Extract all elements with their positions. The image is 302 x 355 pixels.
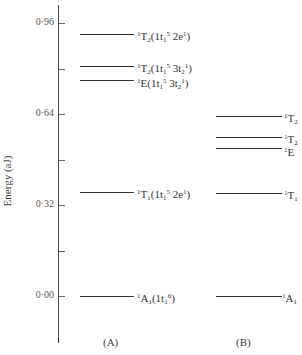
tick-0-96: [59, 23, 65, 24]
level-a-t2-2e-label: 1T2(1t15 2e1): [137, 28, 190, 46]
tick-0-32: [59, 205, 65, 206]
level-b-e: [216, 148, 282, 149]
panel-b-label: (B): [236, 336, 251, 348]
tick-label-0-64: 0·64: [4, 107, 54, 118]
level-b-t2-lower: [216, 137, 282, 138]
tick-0-48: [59, 160, 65, 161]
level-b-t1-label: 1T1: [284, 187, 298, 205]
level-b-e-label: 1E: [284, 144, 294, 158]
level-a-a1-label: 1A1(1t16): [137, 290, 175, 308]
level-a-a1: [80, 296, 134, 297]
level-b-t2-upper-label: 1T2: [284, 110, 298, 128]
panel-a-label: (A): [103, 336, 118, 348]
tick-label-0-96: 0·96: [4, 16, 54, 27]
tick-label-0-00: 0·00: [4, 289, 54, 300]
level-a-t1-2e: [80, 192, 134, 193]
level-b-a1-label: 1A1: [282, 290, 297, 308]
tick-0-64: [59, 114, 65, 115]
tick-0-00: [59, 296, 65, 297]
level-a-t1-2e-label: 1T1(1t15 2e1): [137, 186, 190, 204]
level-a-e-3t2: [80, 80, 134, 81]
energy-axis: [58, 5, 59, 343]
level-a-e-3t2-label: 1E(1t15 3t21): [137, 75, 188, 93]
level-a-t2-3t2: [80, 66, 134, 67]
tick-0-80: [59, 69, 65, 70]
level-b-a1: [216, 296, 282, 297]
level-b-t2-upper: [216, 116, 282, 117]
level-a-t2-2e: [80, 34, 134, 35]
level-b-t1: [216, 193, 282, 194]
tick-0-16: [59, 251, 65, 252]
y-axis-label: Energy (aJ): [1, 156, 13, 207]
